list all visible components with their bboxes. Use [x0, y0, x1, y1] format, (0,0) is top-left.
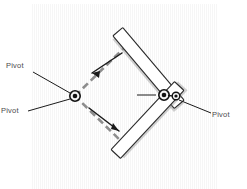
pivot-label-top-left: Pivot: [6, 61, 24, 70]
right-pivot: [159, 90, 169, 100]
right-secondary-pin: [172, 92, 180, 100]
diagram-canvas: [0, 0, 247, 189]
pivot-label-right: Pivot: [212, 110, 230, 119]
left-pivot: [70, 91, 80, 101]
linkage-figure: [0, 0, 247, 189]
pivot-label-bottom-left: Pivot: [1, 106, 19, 115]
